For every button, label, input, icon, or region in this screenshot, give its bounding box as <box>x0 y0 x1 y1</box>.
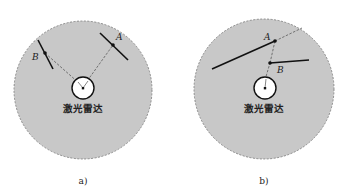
panel-a: A B 激光雷达 a) <box>14 21 152 186</box>
point-b-label: B <box>276 65 284 75</box>
lidar-label: 激光雷达 <box>63 103 103 114</box>
point-b-label: B <box>31 52 39 62</box>
point-a-dot <box>111 43 115 47</box>
lidar-center-dot <box>264 87 266 89</box>
panel-caption: a) <box>79 176 88 186</box>
lidar-occlusion-diagram: A B 激光雷达 a) A B 激光雷达 b) <box>0 0 344 196</box>
panel-b: A B 激光雷达 b) <box>194 19 334 186</box>
point-a-label: A <box>263 32 271 42</box>
point-b-dot <box>268 61 272 65</box>
point-b-dot <box>43 51 47 55</box>
point-a-label: A <box>115 32 123 42</box>
panel-caption: b) <box>259 176 268 186</box>
lidar-label: 激光雷达 <box>244 103 284 114</box>
lidar-center-dot <box>82 87 84 89</box>
point-a-dot <box>273 39 277 43</box>
